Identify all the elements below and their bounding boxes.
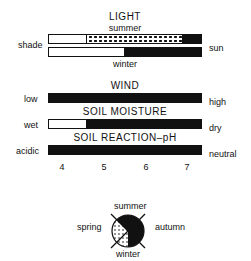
ph-tick-7: 7 — [181, 162, 193, 172]
winter-shade-segment — [49, 48, 124, 56]
light-summer-bar — [48, 34, 202, 44]
wind-low-label: low — [24, 94, 38, 104]
season-circle-icon — [105, 208, 151, 254]
soil-ph-title: SOIL REACTION–pH — [48, 132, 202, 143]
season-spring-label: spring — [77, 222, 102, 232]
soil-wet-label: wet — [24, 120, 38, 130]
light-winter-label: winter — [48, 59, 202, 69]
soil-dry-label: dry — [209, 123, 222, 133]
wind-high-label: high — [209, 97, 226, 107]
light-sun-label: sun — [209, 43, 224, 53]
light-summer-label: summer — [48, 23, 202, 33]
summer-partial-segment — [87, 35, 182, 43]
soil-moisture-title: SOIL MOISTURE — [48, 106, 202, 117]
soil-acidic-label: acidic — [16, 146, 39, 156]
wind-bar — [48, 93, 202, 103]
light-winter-bar — [48, 47, 202, 57]
summer-shade-segment — [49, 35, 87, 43]
soil-moisture-bar — [48, 119, 202, 129]
season-autumn-label: autumn — [155, 222, 185, 232]
ph-tick-5: 5 — [98, 162, 110, 172]
light-title: LIGHT — [48, 11, 202, 22]
ph-tick-6: 6 — [140, 162, 152, 172]
ph-tick-4: 4 — [56, 162, 68, 172]
soil-ph-bar — [48, 145, 202, 155]
moisture-wet-segment — [49, 120, 86, 128]
light-shade-label: shade — [18, 40, 43, 50]
soil-neutral-label: neutral — [209, 149, 237, 159]
wind-title: WIND — [48, 80, 202, 91]
